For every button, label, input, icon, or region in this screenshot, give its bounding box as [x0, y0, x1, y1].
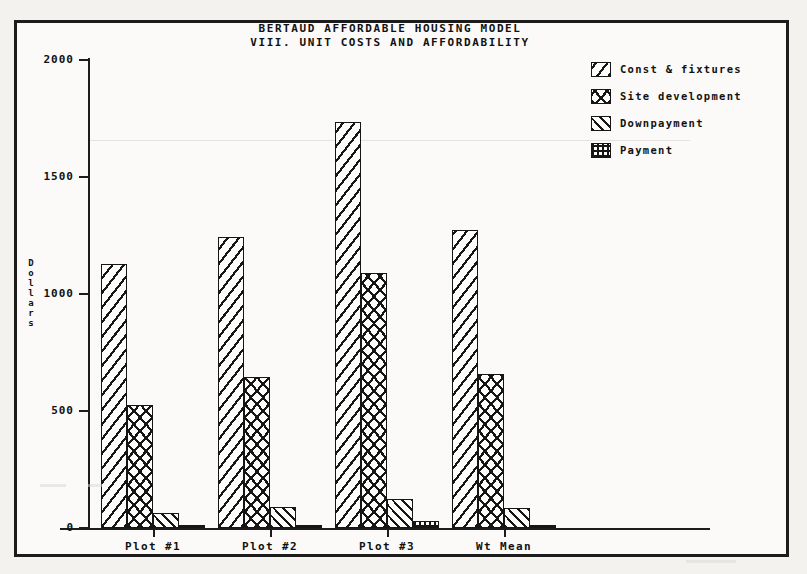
- bar-const-fixtures: [335, 122, 361, 528]
- x-axis: [60, 528, 710, 530]
- bar-payment: [413, 521, 439, 528]
- bar-const-fixtures: [218, 237, 244, 528]
- legend-item[interactable]: Downpayment: [591, 112, 796, 134]
- y-tick-label: 500: [12, 404, 74, 417]
- scan-artifact: [686, 560, 736, 563]
- chart-title: BERTAUD AFFORDABLE HOUSING MODEL: [190, 22, 590, 36]
- bar-site-development: [244, 377, 270, 528]
- x-tick: [504, 528, 506, 537]
- y-tick: [79, 59, 89, 61]
- legend-swatch-icon: [591, 62, 611, 77]
- bar-site-development: [127, 405, 153, 528]
- y-tick: [79, 527, 89, 529]
- x-axis-category-label: Plot #2: [222, 540, 318, 553]
- legend: Const & fixturesSite developmentDownpaym…: [591, 58, 796, 166]
- x-tick: [387, 528, 389, 537]
- bar-payment: [530, 525, 556, 528]
- scan-artifact: [88, 484, 102, 487]
- legend-item[interactable]: Site development: [591, 85, 796, 107]
- x-axis-category-label: Plot #3: [339, 540, 435, 553]
- x-axis-category-label: Wt Mean: [456, 540, 552, 553]
- y-tick-label: 0: [12, 521, 74, 534]
- legend-item-label: Site development: [620, 90, 742, 102]
- bar-site-development: [361, 273, 387, 528]
- legend-swatch-icon: [591, 143, 611, 158]
- y-tick: [79, 176, 89, 178]
- x-tick: [270, 528, 272, 537]
- legend-swatch-icon: [591, 89, 611, 104]
- bar-const-fixtures: [452, 230, 478, 528]
- y-tick: [79, 410, 89, 412]
- bar-downpayment: [504, 508, 530, 528]
- x-tick: [153, 528, 155, 537]
- legend-item-label: Const & fixtures: [620, 63, 742, 75]
- y-tick-label: 1000: [12, 287, 74, 300]
- legend-item-label: Downpayment: [620, 117, 704, 129]
- y-tick-label: 2000: [12, 53, 74, 66]
- bar-site-development: [478, 374, 504, 528]
- legend-item-label: Payment: [620, 144, 673, 156]
- chart-title-block: BERTAUD AFFORDABLE HOUSING MODEL VIII. U…: [190, 22, 590, 50]
- x-axis-category-label: Plot #1: [105, 540, 201, 553]
- legend-item[interactable]: Const & fixtures: [591, 58, 796, 80]
- bar-payment: [296, 525, 322, 528]
- chart-canvas: BERTAUD AFFORDABLE HOUSING MODEL VIII. U…: [0, 0, 807, 574]
- bar-payment: [179, 525, 205, 528]
- bar-const-fixtures: [101, 264, 127, 528]
- bar-downpayment: [387, 499, 413, 528]
- y-tick-label: 1500: [12, 170, 74, 183]
- y-tick: [79, 293, 89, 295]
- legend-swatch-icon: [591, 116, 611, 131]
- bar-downpayment: [153, 513, 179, 528]
- bar-downpayment: [270, 507, 296, 528]
- legend-item[interactable]: Payment: [591, 139, 796, 161]
- scan-artifact: [40, 484, 66, 487]
- chart-subtitle: VIII. UNIT COSTS AND AFFORDABILITY: [190, 36, 590, 50]
